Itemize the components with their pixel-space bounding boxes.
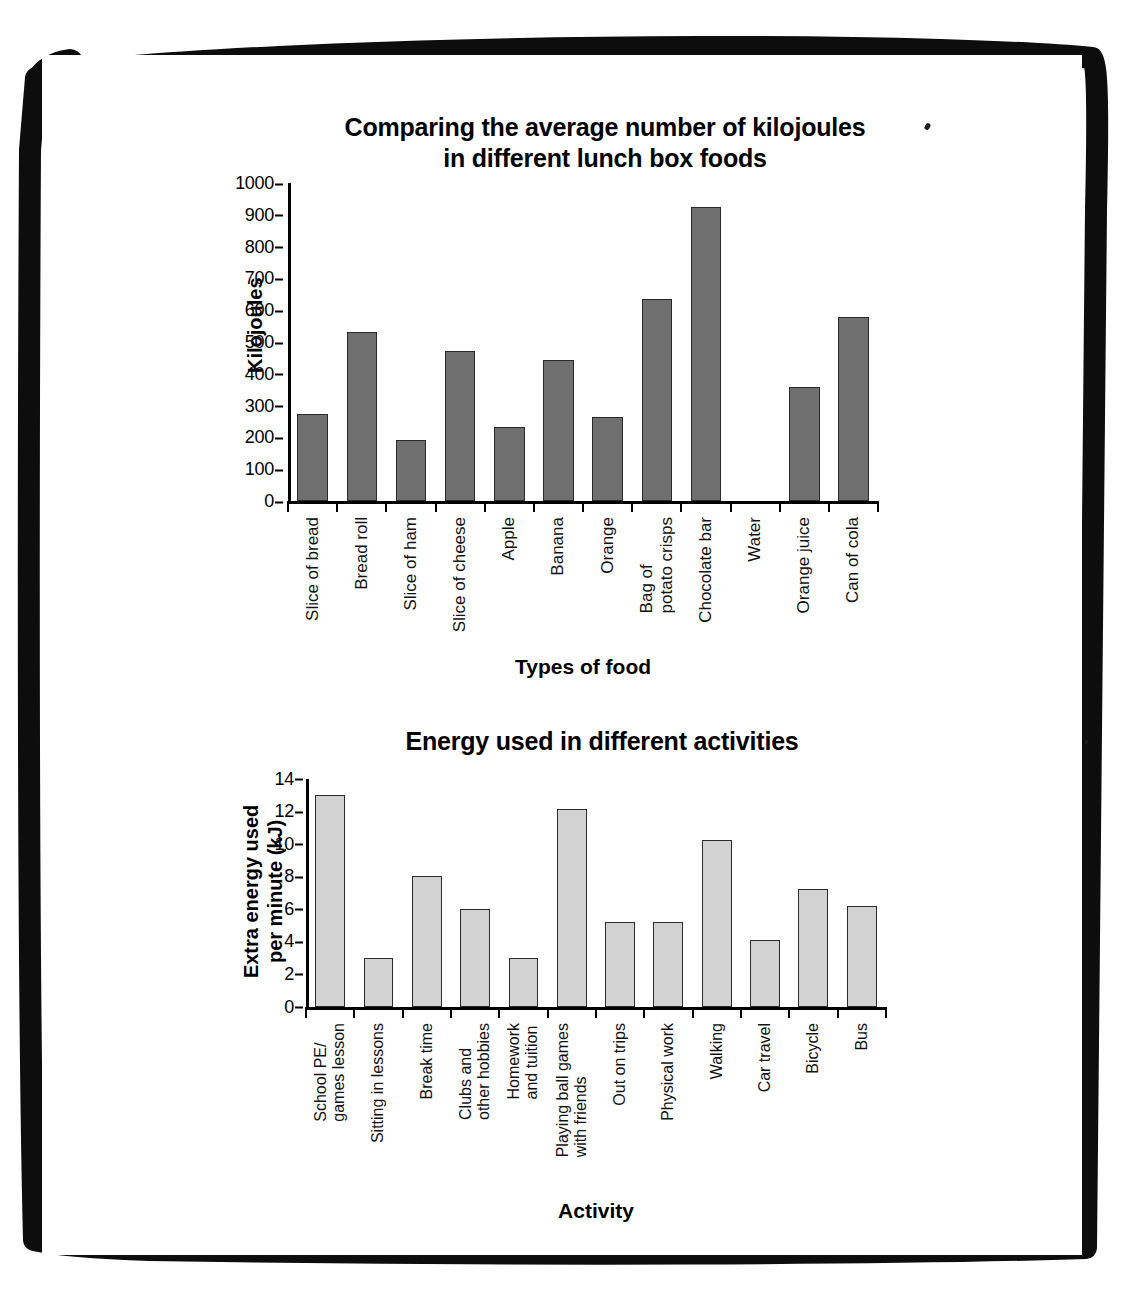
chart-food-x-ticks <box>288 501 878 512</box>
bar <box>543 360 573 501</box>
x-axis-category-label: Walking <box>708 1023 726 1079</box>
y-tick-label: 14 <box>275 768 294 789</box>
x-tick-mark <box>436 501 485 512</box>
x-axis-category-label: Sitting in lessons <box>369 1023 387 1143</box>
bar <box>592 417 622 501</box>
bar-slot <box>436 183 485 501</box>
chart-food-plot-area: Kilojoules 01002003004005006007008009001… <box>288 183 878 501</box>
chart-activity-bars <box>306 779 886 1007</box>
chart-activity-x-ticks <box>306 1007 886 1018</box>
bar <box>509 958 539 1007</box>
x-axis-category-label: Slice of cheese <box>450 517 470 632</box>
x-tick-mark <box>386 501 435 512</box>
bar-slot <box>288 183 337 501</box>
bar <box>494 427 524 501</box>
y-tick-label: 0 <box>264 491 274 512</box>
y-tick-mark <box>275 501 283 503</box>
y-tick-label: 10 <box>275 833 294 854</box>
x-tick-mark <box>403 1007 451 1018</box>
y-tick-mark <box>295 876 303 878</box>
y-tick-mark <box>275 247 283 249</box>
bar <box>445 351 475 501</box>
x-axis-category-label: Clubs and other hobbies <box>457 1023 494 1120</box>
y-tick-label: 1000 <box>235 173 274 194</box>
y-tick-mark <box>295 1007 303 1009</box>
x-tick-mark <box>337 501 386 512</box>
x-axis-category-label: Slice of bread <box>303 517 323 621</box>
bar-slot <box>451 779 499 1007</box>
bar-slot <box>499 779 547 1007</box>
x-tick-mark <box>693 1007 741 1018</box>
bar-slot <box>354 779 402 1007</box>
y-tick-label: 400 <box>245 363 274 384</box>
y-tick-mark <box>275 374 283 376</box>
bar <box>653 922 683 1007</box>
x-axis-category-label: Banana <box>549 517 569 576</box>
chart-activity-plot-area: Extra energy used per minute (kJ) 024681… <box>306 779 886 1007</box>
y-tick-label: 6 <box>284 898 294 919</box>
x-axis-category-label: Playing ball games with friends <box>553 1023 590 1157</box>
y-tick-label: 12 <box>275 801 294 822</box>
x-tick-mark <box>451 1007 499 1018</box>
x-axis-category-label: Orange juice <box>795 517 815 613</box>
chart-activity-x-axis-title: Activity <box>306 1199 886 1223</box>
bar <box>297 414 327 501</box>
y-tick-mark <box>275 278 283 280</box>
y-tick-mark <box>295 974 303 976</box>
x-tick-mark <box>731 501 780 512</box>
bar <box>789 387 819 501</box>
x-axis-category-label: Bicycle <box>804 1023 822 1074</box>
bar <box>798 889 828 1006</box>
x-tick-mark <box>596 1007 644 1018</box>
x-tick-mark <box>534 501 583 512</box>
x-tick-mark <box>632 501 681 512</box>
y-tick-mark <box>275 310 283 312</box>
bar-slot <box>829 183 878 501</box>
bar <box>838 317 868 501</box>
x-tick-mark <box>583 501 632 512</box>
chart-activity-title: Energy used in different activities <box>248 726 956 757</box>
x-axis-category-label: Apple <box>499 517 519 560</box>
bar-slot <box>838 779 886 1007</box>
bar <box>364 958 394 1007</box>
y-tick-label: 900 <box>245 204 274 225</box>
y-tick-label: 700 <box>245 268 274 289</box>
bar <box>347 332 377 501</box>
chart-activity-energy: Energy used in different activities Extr… <box>196 726 956 985</box>
x-axis-category-label: Bus <box>853 1023 871 1051</box>
x-axis-category-label: Water <box>745 517 765 562</box>
y-tick-label: 600 <box>245 300 274 321</box>
x-axis-category-label: Break time <box>418 1023 436 1099</box>
x-axis-category-label: Can of cola <box>844 517 864 603</box>
bar <box>412 876 442 1006</box>
x-tick-mark <box>306 1007 354 1018</box>
x-axis-category-label: Physical work <box>659 1023 677 1121</box>
bar <box>396 440 426 501</box>
bar-slot <box>681 183 730 501</box>
bar <box>605 922 635 1007</box>
bar-slot <box>789 779 837 1007</box>
x-tick-mark <box>288 501 337 512</box>
y-tick-label: 0 <box>284 996 294 1017</box>
bar-slot <box>693 779 741 1007</box>
bar <box>315 795 345 1007</box>
x-axis-category-label: Bag of potato crisps <box>637 517 676 613</box>
bar <box>642 299 672 501</box>
bar <box>460 909 490 1007</box>
y-tick-mark <box>295 844 303 846</box>
bar-slot <box>548 779 596 1007</box>
y-tick-mark <box>295 909 303 911</box>
x-axis-category-label: School PE/ games lesson <box>312 1023 349 1122</box>
bar <box>847 906 877 1007</box>
y-tick-label: 2 <box>284 963 294 984</box>
bar-slot <box>386 183 435 501</box>
y-tick-mark <box>275 406 283 408</box>
x-tick-mark <box>499 1007 547 1018</box>
y-tick-label: 200 <box>245 427 274 448</box>
x-axis-category-label: Out on trips <box>611 1023 629 1106</box>
x-tick-mark <box>829 501 878 512</box>
y-tick-mark <box>295 941 303 943</box>
x-axis-category-label: Homework and tuition <box>505 1023 542 1099</box>
chart-food-title: Comparing the average number of kilojoul… <box>254 112 956 173</box>
bar-slot <box>596 779 644 1007</box>
